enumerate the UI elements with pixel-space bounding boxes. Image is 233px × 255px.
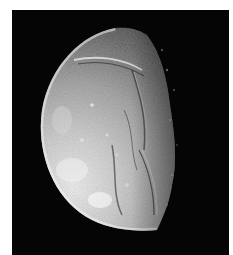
photo-frame: Grayscale photograph of a crescent-to-gi… — [12, 10, 229, 255]
moon-photo — [12, 10, 229, 255]
